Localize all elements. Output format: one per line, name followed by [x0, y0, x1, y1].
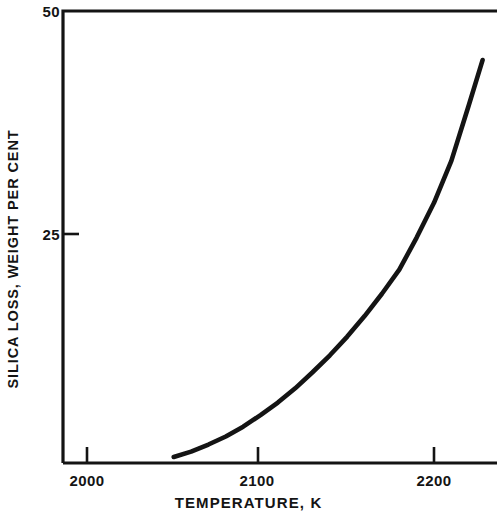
chart-figure: SILICA LOSS, WEIGHT PER CENT TEMPERATURE…: [0, 0, 497, 517]
plot-area: [0, 0, 497, 517]
axis-frame: [63, 11, 497, 463]
data-series-line: [174, 60, 483, 457]
